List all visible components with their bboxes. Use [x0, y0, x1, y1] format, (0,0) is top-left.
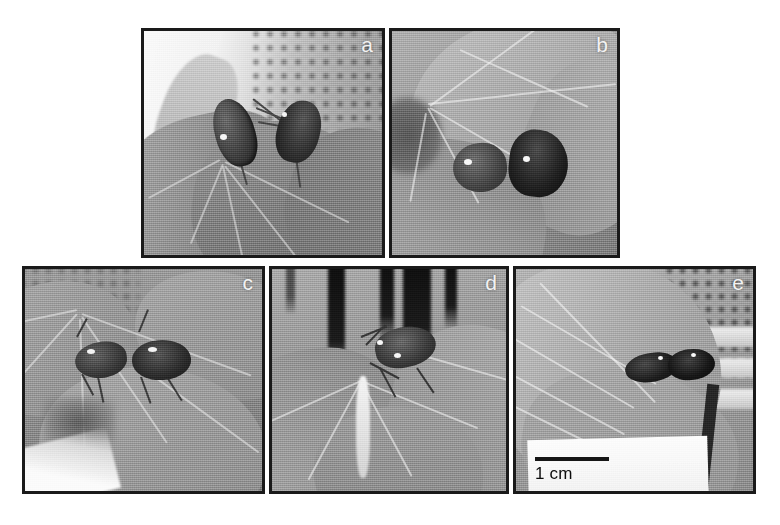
panel-c-image	[25, 269, 262, 491]
panel-a-image	[144, 31, 382, 255]
panel-e-image: 1 cm	[516, 269, 753, 491]
insect-highlight	[658, 356, 663, 360]
figure-panel-d[interactable]: d	[269, 266, 509, 494]
panel-d-image	[272, 269, 506, 491]
scale-bar-label: 1 cm	[535, 465, 609, 482]
petiole-stem	[356, 376, 370, 478]
figure-panel-a[interactable]: a	[141, 28, 385, 258]
figure-panel-e[interactable]: 1 cm e	[513, 266, 756, 494]
panel-label-e: e	[732, 272, 744, 293]
panel-label-c: c	[243, 272, 254, 293]
dark-background-stripe	[445, 269, 457, 327]
panel-label-b: b	[596, 34, 608, 55]
panel-label-a: a	[361, 34, 373, 55]
figure-panel-b[interactable]: b	[389, 28, 620, 258]
figure-root: a b	[0, 0, 780, 525]
scale-bar-line	[535, 457, 609, 461]
panel-label-d: d	[485, 272, 497, 293]
scale-bar: 1 cm	[535, 457, 609, 482]
dark-background-stripe	[286, 269, 295, 313]
figure-panel-c[interactable]: c	[22, 266, 265, 494]
insect-highlight	[148, 347, 157, 352]
panel-b-image	[392, 31, 617, 255]
insect-highlight	[464, 159, 472, 165]
insect-highlight	[282, 112, 287, 117]
insect-highlight	[87, 349, 95, 354]
